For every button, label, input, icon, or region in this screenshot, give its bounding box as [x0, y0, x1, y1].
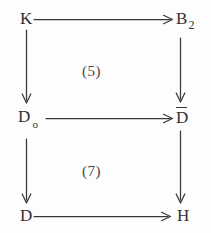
node-d-bar-base: D — [176, 108, 188, 127]
node-d-label: D — [20, 206, 32, 225]
node-b2: B2 — [176, 10, 194, 27]
node-d-sub-o-subscript: o — [32, 118, 38, 130]
node-k: K — [20, 10, 32, 27]
node-d: D — [20, 207, 32, 224]
node-d-sub-o-base: D — [18, 107, 30, 126]
node-d-bar-wrap: D — [176, 109, 188, 126]
node-b2-base: B — [176, 9, 188, 28]
node-b2-subscript: 2 — [189, 18, 195, 32]
arrow-d0-to-d — [22, 139, 31, 203]
node-d-sub-o: Do — [18, 108, 36, 125]
overline-bar — [176, 107, 187, 108]
arrow-d0-to-dbar — [46, 114, 173, 122]
arrow-d-to-h — [34, 212, 171, 220]
arrow-k-to-b2 — [34, 15, 173, 23]
square-label-lower: (7) — [82, 163, 101, 180]
arrow-b2-to-dbar — [176, 38, 185, 102]
arrow-dbar-to-h — [176, 131, 185, 203]
node-d-bar: D — [176, 109, 188, 126]
arrow-k-to-d0 — [22, 30, 31, 103]
node-h: H — [177, 207, 189, 224]
node-h-label: H — [177, 206, 189, 225]
square-label-upper: (5) — [82, 63, 101, 80]
node-k-label: K — [20, 9, 32, 28]
commutative-diagram: K B2 Do D D H (5) (7) — [0, 0, 211, 233]
